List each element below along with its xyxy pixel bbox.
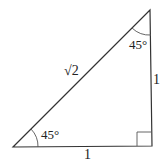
hypotenuse-label: √2 <box>64 63 79 78</box>
right-angle-marker <box>137 132 151 146</box>
angle-arc-bottom-left <box>31 129 38 147</box>
angle-label-bottom-left: 45° <box>41 127 59 142</box>
triangle <box>13 10 152 147</box>
triangle-diagram: 45° 45° √2 1 1 <box>0 0 165 163</box>
bottom-side-label: 1 <box>84 147 91 162</box>
angle-arc-top <box>132 28 151 35</box>
angle-label-top: 45° <box>129 37 147 52</box>
right-side-label: 1 <box>153 72 160 87</box>
